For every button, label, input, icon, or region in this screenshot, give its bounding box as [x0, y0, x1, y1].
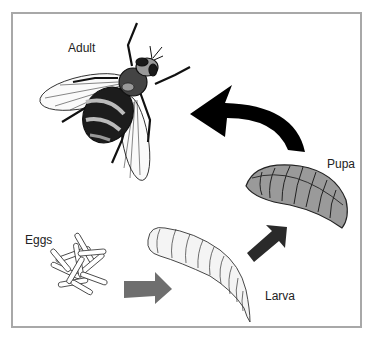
eggs-illustration — [50, 232, 108, 295]
life-cycle-illustration — [0, 0, 375, 339]
label-eggs: Eggs — [25, 233, 52, 247]
arrow-larva-to-pupa — [247, 225, 287, 262]
arrow-pupa-to-adult — [190, 85, 305, 152]
larva-illustration — [148, 228, 250, 323]
pupa-illustration — [246, 165, 347, 228]
adult-fly-illustration — [37, 23, 190, 183]
label-pupa: Pupa — [327, 157, 355, 171]
label-adult: Adult — [68, 41, 95, 55]
label-larva: Larva — [265, 289, 295, 303]
arrow-eggs-to-larva — [124, 272, 172, 304]
